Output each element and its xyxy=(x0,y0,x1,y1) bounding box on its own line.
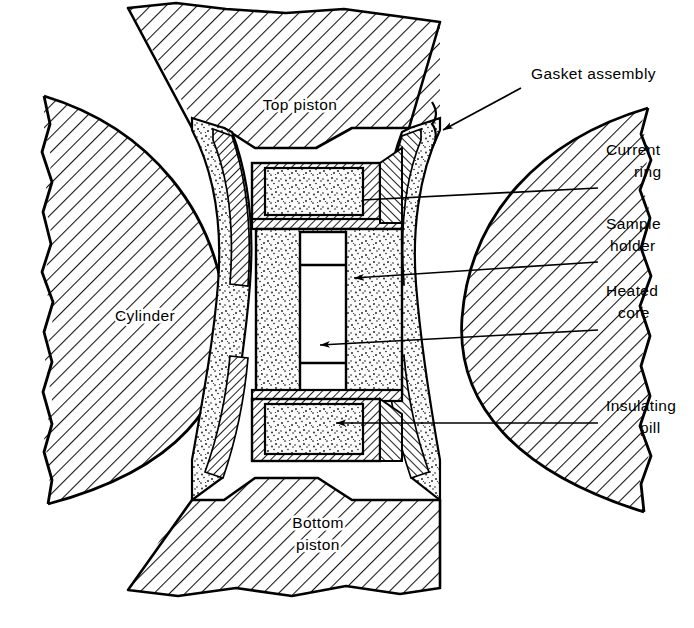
label-current-ring-line1: Current xyxy=(606,141,661,158)
label-sample-holder-line1: Sample xyxy=(606,215,661,232)
label-top-piston: Top piston xyxy=(263,96,338,113)
part-sample-holder xyxy=(256,229,402,393)
label-insulating-pill-line2: pill xyxy=(640,419,661,436)
label-heated-core-line2: core xyxy=(618,304,650,321)
part-heated-core xyxy=(300,232,346,392)
label-insulating-pill-line1: Insulating xyxy=(606,397,676,414)
label-cylinder: Cylinder xyxy=(115,307,175,324)
label-sample-holder-line2: holder xyxy=(610,237,656,254)
label-bottom-piston-line1: Bottom xyxy=(292,514,344,531)
cross-section-diagram: Top piston Cylinder Bottom piston Gasket… xyxy=(0,0,694,628)
lower-insulating-pill xyxy=(265,404,363,454)
label-current-ring-line2: ring xyxy=(634,163,661,180)
label-gasket-assembly: Gasket assembly xyxy=(531,65,656,82)
label-heated-core-line1: Heated xyxy=(606,282,658,299)
upper-insulating-pill xyxy=(265,168,363,215)
label-bottom-piston-line2: piston xyxy=(296,536,340,553)
diagram-root: Top piston Cylinder Bottom piston Gasket… xyxy=(0,0,694,628)
